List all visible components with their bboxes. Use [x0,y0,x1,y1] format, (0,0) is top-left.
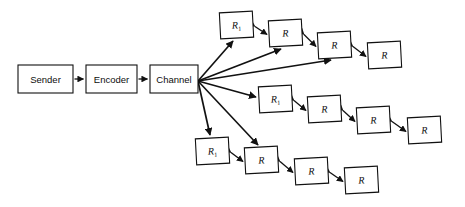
node-encoder: Encoder [86,65,137,93]
node-t4: R [367,41,401,69]
node-m3-label: R [369,114,377,125]
node-b3: R [294,157,328,185]
node-boxes: SenderEncoderChannelR1RRRR1RRRR1RRR [18,11,442,194]
node-m3: R [356,106,390,134]
link-t3-t4 [353,47,366,57]
node-channel-label: Channel [156,74,191,85]
link-b1-b2 [231,153,243,162]
node-t3-label: R [330,39,338,50]
node-t1: R1 [219,11,253,39]
node-channel: Channel [150,65,198,93]
fan-ray-to-t2 [198,49,281,81]
node-b4: R [344,166,378,194]
node-m4: R [407,116,441,144]
node-m4-label: R [420,124,428,135]
node-b2: R [244,146,278,174]
node-b3-label: R [307,165,315,176]
link-m1-m2 [294,101,306,111]
node-m2-label: R [320,103,328,114]
node-sender: Sender [18,65,73,93]
link-t1-t2 [255,27,267,35]
node-sender-label: Sender [30,74,61,85]
diagram-svg: SenderEncoderChannelR1RRRR1RRRR1RRR [0,0,465,207]
node-m1-subscript: 1 [277,98,281,105]
chain-connectors [75,27,407,182]
node-b1-subscript: 1 [214,150,218,157]
fan-ray-to-b1 [198,81,210,135]
node-m1: R1 [258,85,292,113]
node-t2: R [268,19,302,47]
fan-ray-to-b2 [198,81,258,145]
node-t3: R [317,31,351,59]
node-b2-label: R [257,154,265,165]
node-encoder-label: Encoder [94,74,129,85]
node-t1-subscript: 1 [238,24,242,31]
link-t2-t3 [304,35,316,47]
fan-ray-to-m1 [198,81,256,97]
node-m2: R [307,95,341,123]
link-b2-b3 [280,162,293,173]
node-t2-label: R [281,27,289,38]
node-b4-label: R [357,174,365,185]
fan-ray-to-t3 [198,60,331,81]
node-t4-label: R [380,49,388,60]
node-b1: R1 [195,137,229,165]
diagram-canvas: SenderEncoderChannelR1RRRR1RRRR1RRR [0,0,465,207]
link-m2-m3 [343,111,355,122]
link-b3-b4 [330,173,343,182]
link-m3-m4 [392,122,406,132]
